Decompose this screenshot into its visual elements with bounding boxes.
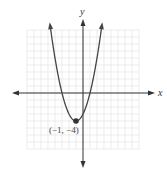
x-axis-label: x — [157, 87, 163, 98]
x-axis-right-arrow-icon — [148, 91, 155, 96]
vertex-point — [73, 118, 79, 124]
y-axis-label: y — [79, 6, 85, 17]
y-axis-up-arrow-icon — [81, 19, 86, 26]
vertex-label: (−1, −4) — [49, 125, 79, 135]
curve-arrow-icon — [99, 22, 104, 29]
y-axis-down-arrow-icon — [81, 161, 86, 168]
x-axis-left-arrow-icon — [12, 91, 19, 96]
parabola-graph: x y (−1, −4) — [0, 0, 167, 178]
curve-arrow-icon — [48, 22, 53, 29]
